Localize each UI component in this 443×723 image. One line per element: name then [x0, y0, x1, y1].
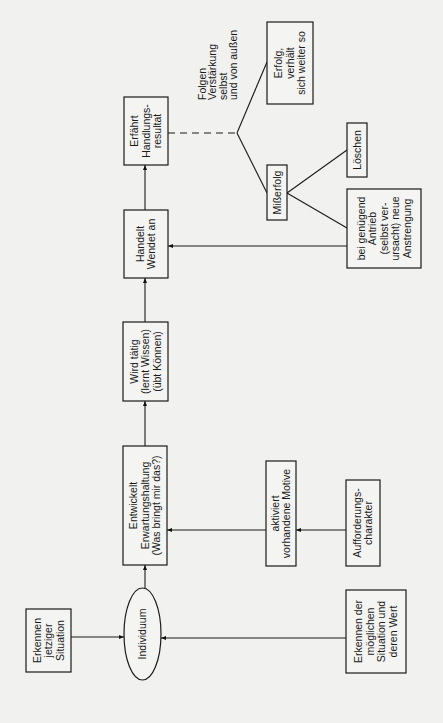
label-line: deren Wert — [387, 606, 399, 658]
label-line: Erkennen der — [352, 599, 364, 663]
label-line: (Was bringt mir das?) — [150, 456, 162, 556]
node-erfaehrt-handlungsresultat: ErfährtHandlungs-resultat — [124, 97, 168, 165]
svg-text:ErkennenjetzigerSituation: ErkennenjetzigerSituation — [31, 618, 66, 663]
svg-text:Erkennen dermöglichenSituation: Erkennen dermöglichenSituation undderen … — [352, 599, 399, 663]
label-line: bei genügend — [355, 197, 367, 261]
svg-text:FolgenVerstärkungselbstund von: FolgenVerstärkungselbstund von außen — [196, 30, 240, 100]
label-line: Aufforderungs- — [351, 488, 363, 558]
label-line: (selbst ver- — [378, 202, 390, 254]
branch-misserfolg-to-neue-anstrengung — [287, 193, 347, 228]
svg-text:Löschen: Löschen — [351, 130, 363, 170]
label-line: (lernt Wissen) — [139, 329, 151, 394]
label-line: vorhandene Motive — [280, 469, 292, 558]
label-line: (übt Können) — [151, 331, 163, 392]
node-loeschen: Löschen — [347, 123, 367, 177]
svg-text:Individuum: Individuum — [136, 608, 148, 659]
label-line: Erkennen — [31, 618, 43, 663]
label-line: Erfährt — [128, 115, 140, 147]
node-erfolg: Erfolg,verhältsich weiter so — [267, 22, 313, 104]
node-entwickelt-erwartungshaltung: EntwickeltErwartungshaltung(Was bringt m… — [123, 446, 167, 565]
label-line: und von außen — [227, 30, 239, 100]
label-line: möglichen — [364, 607, 376, 655]
node-misserfolg: Mißerfolg — [267, 165, 287, 220]
label-line: aktiviert — [269, 495, 281, 531]
motivation-flow-diagram: ErkennenjetzigerSituation Individuum Erk… — [0, 0, 443, 723]
label-line: verhält — [284, 47, 296, 79]
label-line: Individuum — [136, 608, 148, 659]
node-wird-taetig: Wird tätig(lernt Wissen)(übt Können) — [123, 322, 168, 401]
label-line: Erwartungshaltung — [139, 462, 151, 550]
branch-to-misserfolg — [237, 133, 267, 193]
label-line: Mißerfolg — [271, 170, 283, 214]
label-line: ursacht) neue — [389, 196, 401, 260]
label-line: Anstrengung — [401, 199, 413, 259]
label-line: Situation und — [375, 601, 387, 662]
node-aufforderungscharakter: Aufforderungs-charakter — [346, 480, 380, 566]
node-aktiviert-motive: aktiviertvorhandene Motive — [266, 461, 296, 566]
svg-text:Mißerfolg: Mißerfolg — [271, 170, 283, 214]
node-erkennen-moeglichen-situation: Erkennen dermöglichenSituation undderen … — [346, 590, 406, 673]
label-line: jetziger — [42, 623, 54, 658]
label-line: Wendet an — [145, 219, 157, 270]
node-erkennen-jetziger-situation: ErkennenjetzigerSituation — [26, 609, 71, 672]
label-line: Handlungs- — [140, 104, 152, 158]
branch-misserfolg-to-loeschen — [287, 150, 347, 193]
label-line: Löschen — [351, 130, 363, 170]
label-line: charakter — [362, 501, 374, 545]
label-line: Antrieb — [366, 212, 378, 245]
label-line: Handelt — [134, 226, 146, 262]
label-line: Entwickelt — [127, 482, 139, 529]
branch-to-erfolg — [237, 62, 267, 133]
label-line: Erfolg, — [272, 48, 284, 78]
label-line: Wird tätig — [128, 339, 140, 384]
label-folgen-verstaerkung: FolgenVerstärkungselbstund von außen — [196, 30, 240, 100]
node-individuum: Individuum — [124, 588, 161, 680]
svg-text:HandeltWendet an: HandeltWendet an — [134, 219, 158, 270]
label-line: sich weiter so — [295, 31, 307, 95]
node-neue-anstrengung: bei genügendAntrieb(selbst ver-ursacht) … — [347, 189, 421, 268]
node-handelt-wendet-an: HandeltWendet an — [124, 210, 168, 278]
label-line: Situation — [54, 620, 66, 661]
svg-text:bei genügendAntrieb(selbst ver: bei genügendAntrieb(selbst ver-ursacht) … — [355, 196, 413, 260]
label-line: resultat — [151, 114, 163, 149]
